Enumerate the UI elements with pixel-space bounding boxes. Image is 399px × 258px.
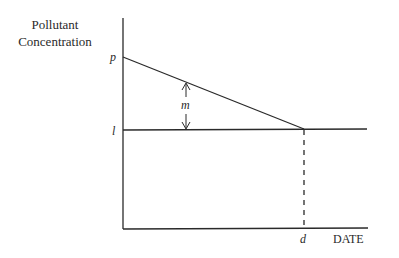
label-m: m <box>181 98 190 112</box>
label-d: d <box>300 232 307 246</box>
pollutant-diagram: p l m d DATE <box>0 0 399 258</box>
x-axis-title: DATE <box>333 232 364 246</box>
label-p: p <box>109 50 116 64</box>
level-l-line <box>123 129 367 130</box>
declining-concentration-line <box>123 57 304 129</box>
x-axis <box>123 228 368 229</box>
label-l: l <box>112 124 116 138</box>
